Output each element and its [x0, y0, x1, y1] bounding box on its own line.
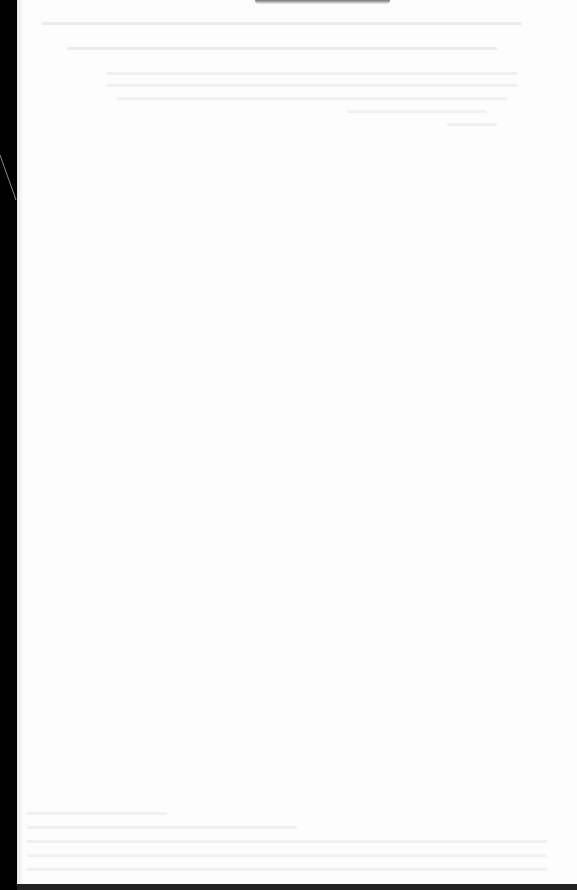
footer-text-line: [27, 826, 297, 829]
footer-text-line: [27, 812, 167, 815]
table-text-line: [107, 72, 517, 75]
page-top-shadow: [255, 0, 390, 4]
table-text-line: [107, 84, 517, 87]
footer-text-line: [27, 840, 547, 843]
table-text-line: [117, 97, 507, 100]
table-text-line: [347, 110, 487, 113]
header-text-line: [42, 22, 522, 25]
page-curl-edge: [0, 150, 20, 210]
footer-text-line: [27, 854, 547, 857]
footer-text-line: [27, 868, 547, 871]
document-page: [17, 0, 577, 886]
table-text-line: [447, 123, 497, 126]
header-text-line: [67, 47, 497, 50]
page-bottom-edge: [17, 884, 577, 890]
